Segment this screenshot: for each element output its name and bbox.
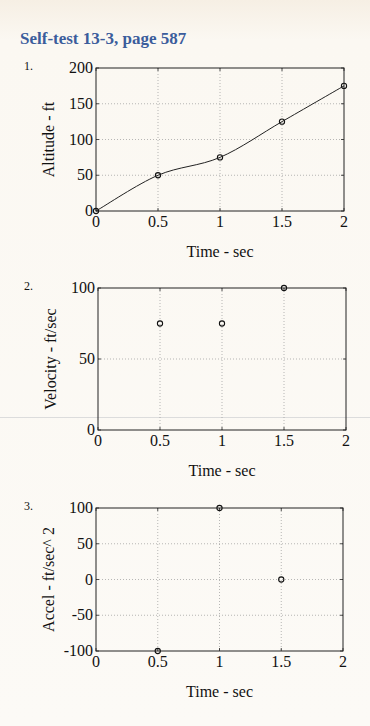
x-tick-label: 1.5 [272,213,292,230]
y-tick-label: -100 [64,642,93,659]
x-tick-label: 1.5 [271,653,291,670]
y-tick-label: -50 [72,606,93,623]
y-tick-label: 50 [79,350,95,367]
acceleration-chart: 00.511.52-100-50050100Time - secAccel - … [24,499,347,700]
plot-number: 3. [24,499,33,513]
plots-canvas: 00.511.52050100150200Time - secAltitude … [0,0,370,726]
x-tick-label: 1 [218,432,226,449]
plot-number: 1. [24,59,33,73]
x-tick-label: 1 [216,653,224,670]
y-tick-label: 50 [77,166,93,183]
altitude-chart: 00.511.52050100150200Time - secAltitude … [24,59,348,260]
x-tick-label: 2 [342,432,350,449]
y-axis-label: Velocity - ft/sec [42,308,60,409]
y-tick-label: 100 [71,279,95,296]
x-tick-label: 2 [339,653,347,670]
x-tick-label: 0 [92,213,100,230]
y-tick-label: 150 [69,95,93,112]
y-tick-label: 200 [69,59,93,76]
x-tick-label: 0 [92,653,100,670]
y-tick-label: 100 [69,131,93,148]
velocity-chart: 00.511.52050100Time - secVelocity - ft/s… [24,279,350,479]
y-tick-label: 0 [85,202,93,219]
x-tick-label: 0 [94,432,102,449]
y-tick-label: 0 [85,571,93,588]
x-tick-label: 1 [216,213,224,230]
y-tick-label: 100 [69,499,93,516]
y-tick-label: 0 [87,421,95,438]
x-tick-label: 2 [340,213,348,230]
x-tick-label: 0.5 [148,213,168,230]
x-tick-label: 0.5 [148,653,168,670]
y-axis-label: Altitude - ft [40,101,57,177]
y-axis-label: Accel - ft/sec^ 2 [40,527,57,632]
x-axis-label: Time - sec [186,683,253,700]
x-axis-label: Time - sec [187,243,254,260]
y-tick-label: 50 [77,535,93,552]
plot-number: 2. [24,279,33,293]
x-axis-label: Time - sec [189,462,256,479]
x-tick-label: 1.5 [274,432,294,449]
x-tick-label: 0.5 [150,432,170,449]
